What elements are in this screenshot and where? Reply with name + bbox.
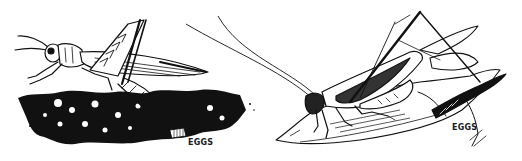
right-antennae: [186, 16, 316, 98]
eggs-label-right: EGGS: [452, 123, 477, 132]
eggs-label-left: EGGS: [188, 138, 213, 147]
illustration: EGGS EGGS: [0, 0, 522, 161]
grasshopper-illustration: [0, 0, 522, 161]
soil-mass: [18, 90, 255, 145]
